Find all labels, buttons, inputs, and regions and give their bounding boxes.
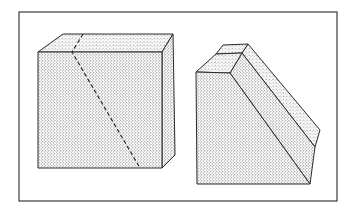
cube-right-face [162, 34, 175, 168]
cube-top-face [38, 34, 173, 52]
cube [38, 34, 175, 168]
cube-front-face [38, 52, 162, 168]
cube-cut-illustration [0, 0, 351, 203]
cut-prism [196, 44, 320, 184]
